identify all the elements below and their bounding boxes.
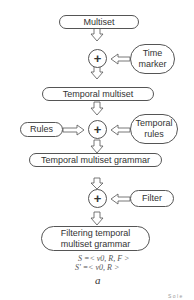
node-temporal-rules: Temporal rules: [130, 114, 178, 144]
node-multiset: Multiset: [59, 15, 139, 29]
plus-operator-1: +: [88, 49, 107, 68]
formula-s-prime: S' =< v0, R >: [75, 263, 119, 272]
node-rules: Rules: [20, 122, 63, 137]
formula-s: S =< v0, R, F >: [78, 254, 130, 263]
node-time-marker-label-2: marker: [138, 59, 166, 70]
arrow-right-rules: [63, 125, 84, 135]
node-filter: Filter: [130, 190, 174, 207]
node-multiset-label: Multiset: [83, 17, 114, 28]
arrow-down-4: [91, 140, 103, 153]
node-temporal-rules-label-2: rules: [144, 129, 164, 140]
plus-operator-2: +: [88, 120, 107, 139]
node-temporal-multiset-grammar: Temporal multiset grammar: [29, 153, 162, 167]
node-temporal-rules-label-1: Temporal: [135, 118, 172, 129]
arrow-left-temporal-rules: [111, 125, 130, 135]
node-rules-label: Rules: [30, 124, 53, 135]
plus-operator-3: +: [88, 189, 107, 208]
node-temporal-multiset: Temporal multiset: [42, 87, 154, 101]
arrow-down-3: [91, 102, 103, 115]
node-filtering-label-1: Filtering temporal: [61, 228, 131, 239]
arrow-down-6: [91, 212, 103, 225]
node-time-marker-label-1: Time: [143, 48, 163, 59]
node-time-marker: Time marker: [130, 44, 175, 74]
arrow-down-5: [91, 178, 103, 189]
arrow-down-1: [91, 28, 103, 41]
node-temporal-multiset-grammar-label: Temporal multiset grammar: [41, 155, 150, 166]
arrow-left-filter: [111, 194, 130, 204]
arrow-left-time-marker: [111, 54, 130, 64]
node-filtering-label-2: multiset grammar: [61, 239, 131, 250]
node-filtering-temporal-multiset-grammar: Filtering temporal multiset grammar: [41, 226, 150, 251]
node-temporal-multiset-label: Temporal multiset: [63, 89, 134, 100]
figure-caption: a: [95, 274, 101, 286]
corner-text: S o l e: [168, 293, 182, 299]
node-filter-label: Filter: [142, 193, 162, 204]
